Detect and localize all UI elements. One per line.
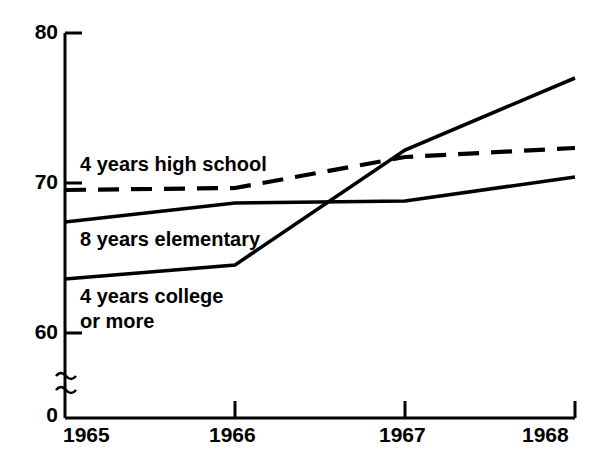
y-axis-tick-label-0: 0 [6,404,58,425]
x-axis-tick-label-1966: 1966 [209,424,256,445]
x-axis-tick-label-1965: 1965 [63,424,110,445]
series-label-college-continued: or more [80,309,154,333]
y-axis-tick-label-60: 60 [6,321,58,342]
x-axis-tick-label-1967: 1967 [379,424,426,445]
series-label-college: 4 years college [80,284,223,308]
x-axis-tick-label-1968: 1968 [522,424,569,445]
y-axis-tick-label-70: 70 [6,171,58,192]
series-label-high-school: 4 years high school [80,152,267,176]
series-line-elementary [65,177,575,222]
series-label-elementary: 8 years elementary [80,227,260,251]
y-axis-tick-label-80: 80 [6,21,58,42]
line-chart: 80 70 60 0 1965 1966 1967 1968 4 years h… [0,0,606,468]
